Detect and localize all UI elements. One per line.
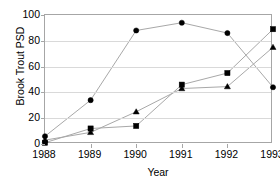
y-axis-tick-label: 20 bbox=[14, 112, 40, 122]
data-point-marker bbox=[88, 98, 93, 103]
x-axis-tick-label: 1989 bbox=[68, 148, 112, 160]
series-line bbox=[45, 47, 273, 140]
y-axis-tickmark bbox=[41, 92, 45, 93]
x-axis-tick-label: 1992 bbox=[204, 148, 248, 160]
data-point-marker bbox=[270, 27, 275, 32]
gridline bbox=[45, 118, 271, 119]
x-axis-tick-label: 1993 bbox=[250, 148, 280, 160]
y-axis-tickmark bbox=[41, 15, 45, 16]
gridline bbox=[45, 67, 271, 68]
data-point-marker bbox=[134, 28, 139, 33]
x-axis-tick-label: 1988 bbox=[22, 148, 66, 160]
y-axis-tickmark bbox=[41, 118, 45, 119]
gridline bbox=[45, 92, 271, 93]
data-point-marker bbox=[133, 109, 139, 114]
y-axis-tick-label: 100 bbox=[14, 9, 40, 19]
chart-container: Brook Trout PSD 020406080100 19881989199… bbox=[0, 0, 280, 184]
y-axis-tickmark bbox=[41, 67, 45, 68]
y-axis-tickmark bbox=[41, 144, 45, 145]
gridline bbox=[45, 41, 271, 42]
y-axis-tick-label: 0 bbox=[14, 138, 40, 148]
series-line bbox=[45, 23, 273, 137]
series-layer bbox=[45, 15, 273, 144]
x-axis-tick-label: 1991 bbox=[159, 148, 203, 160]
y-axis-tickmark bbox=[41, 41, 45, 42]
y-axis-tick-label: 80 bbox=[14, 35, 40, 45]
data-point-marker bbox=[179, 20, 184, 25]
data-point-marker bbox=[134, 123, 139, 128]
data-point-marker bbox=[225, 30, 230, 35]
data-point-marker bbox=[270, 85, 275, 90]
y-axis-tick-label: 60 bbox=[14, 61, 40, 71]
y-axis-tick-label: 40 bbox=[14, 86, 40, 96]
x-axis-tick-label: 1990 bbox=[113, 148, 157, 160]
plot-area bbox=[44, 14, 272, 143]
data-point-marker bbox=[270, 44, 276, 49]
x-axis-title: Year bbox=[44, 166, 272, 178]
data-point-marker bbox=[225, 70, 230, 75]
